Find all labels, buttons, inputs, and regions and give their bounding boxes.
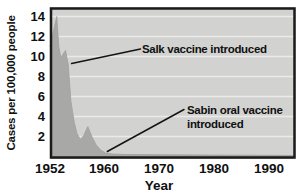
sabin-annotation-line2: introduced — [187, 117, 283, 131]
y-axis-title: Cases per 100,000 people — [4, 11, 18, 156]
x-axis-tick-1990: 1990 — [247, 162, 291, 176]
x-axis-tick-1970: 1970 — [137, 162, 181, 176]
sabin-vaccine-annotation: Sabin oral vaccine introduced — [187, 103, 283, 131]
x-axis-tick-1960: 1960 — [82, 162, 126, 176]
x-axis-title: Year — [134, 179, 184, 193]
sabin-annotation-line1: Sabin oral vaccine — [187, 103, 283, 117]
x-axis-tick-1952: 1952 — [28, 162, 72, 176]
x-axis-tick-1980: 1980 — [192, 162, 236, 176]
polio-incidence-chart: 2468101214 19521960197019801990 Cases pe… — [0, 0, 303, 196]
salk-vaccine-annotation: Salk vaccine introduced — [142, 42, 267, 56]
